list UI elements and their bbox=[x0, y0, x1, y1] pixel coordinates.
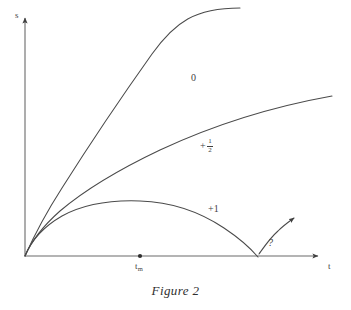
curve-label-zero: 0 bbox=[191, 73, 196, 83]
y-axis-label: s bbox=[15, 11, 19, 20]
plus-half-sign: + bbox=[200, 140, 206, 151]
fraction-denominator: 2 bbox=[207, 147, 213, 154]
tick-label-tm-sub: m bbox=[138, 265, 143, 272]
question-arrow-icon bbox=[259, 218, 294, 254]
plus-half-fraction: 1 2 bbox=[207, 138, 213, 154]
curve-label-plus-one: +1 bbox=[208, 204, 219, 214]
curve-plus-half bbox=[25, 96, 332, 256]
question-mark-label: ? bbox=[268, 238, 273, 248]
figure-plot-svg bbox=[0, 0, 351, 310]
fraction-numerator: 1 bbox=[207, 138, 213, 145]
figure-caption: Figure 2 bbox=[0, 283, 351, 299]
curve-label-plus-half: + 1 2 bbox=[200, 138, 213, 154]
figure-2-container: s t tm 0 + 1 2 +1 ? Figure 2 bbox=[0, 0, 351, 310]
curve-plus-one bbox=[25, 201, 258, 257]
x-axis-label: t bbox=[328, 262, 331, 271]
tick-label-tm: tm bbox=[135, 262, 143, 272]
tick-dot-tm bbox=[138, 254, 142, 258]
